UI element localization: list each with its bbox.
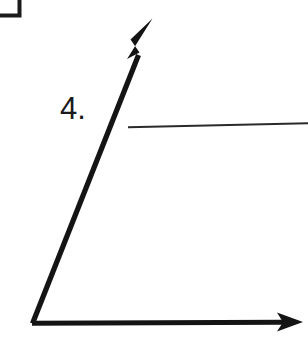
box-corner-artifact [0, 0, 20, 16]
angle-figure [0, 0, 308, 358]
ray-horizontal [32, 313, 303, 332]
ray-diagonal [33, 19, 153, 324]
worksheet-canvas: 4. [0, 0, 308, 358]
answer-line[interactable] [128, 123, 308, 127]
problem-number-label: 4. [60, 90, 106, 130]
